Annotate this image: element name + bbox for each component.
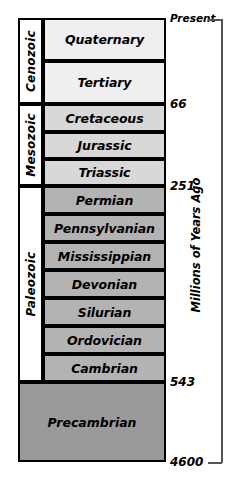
period-label-ordovician: Ordovician <box>67 333 142 348</box>
era-column-paleozoic: Paleozoic <box>18 186 43 382</box>
period-box-precambrian: Precambrian <box>18 382 166 462</box>
period-label-jurassic: Jurassic <box>78 138 132 153</box>
era-column-cenozoic: Cenozoic <box>18 18 43 104</box>
age-tick-label-543: 543 <box>170 376 195 388</box>
period-label-cambrian: Cambrian <box>71 361 138 376</box>
era-label-cenozoic: Cenozoic <box>24 30 38 92</box>
axis-bracket-tick-top <box>208 19 222 21</box>
geologic-time-scale-chart: CenozoicQuaternaryTertiaryMesozoicCretac… <box>0 0 235 478</box>
period-box-tertiary: Tertiary <box>43 61 166 104</box>
era-label-paleozoic: Paleozoic <box>24 252 38 317</box>
period-box-pennsylvanian: Pennsylvanian <box>43 214 166 242</box>
era-column-mesozoic: Mesozoic <box>18 104 43 186</box>
age-tick-label-4600: 4600 <box>170 456 203 468</box>
age-tick-label-66: 66 <box>170 98 187 110</box>
period-label-triassic: Triassic <box>79 165 131 180</box>
axis-title: Millions of Years Ago <box>186 150 206 340</box>
period-box-triassic: Triassic <box>43 159 166 186</box>
period-label-permian: Permian <box>76 193 133 208</box>
period-box-jurassic: Jurassic <box>43 132 166 159</box>
period-label-mississippian: Mississippian <box>58 249 151 264</box>
axis-title-text: Millions of Years Ago <box>189 177 203 312</box>
period-box-devonian: Devonian <box>43 270 166 298</box>
period-box-ordovician: Ordovician <box>43 326 166 354</box>
period-box-mississippian: Mississippian <box>43 242 166 270</box>
era-label-mesozoic: Mesozoic <box>24 113 38 177</box>
axis-bracket-vertical <box>221 19 223 463</box>
period-box-quaternary: Quaternary <box>43 18 166 61</box>
axis-bracket-tick-bottom <box>208 462 222 464</box>
period-box-permian: Permian <box>43 186 166 214</box>
period-box-cambrian: Cambrian <box>43 354 166 382</box>
period-box-cretaceous: Cretaceous <box>43 104 166 132</box>
period-box-silurian: Silurian <box>43 298 166 326</box>
period-label-pennsylvanian: Pennsylvanian <box>54 221 155 236</box>
period-label-tertiary: Tertiary <box>78 75 132 90</box>
period-label-devonian: Devonian <box>72 277 137 292</box>
period-label-precambrian: Precambrian <box>47 415 136 430</box>
period-label-cretaceous: Cretaceous <box>65 111 143 126</box>
period-label-silurian: Silurian <box>78 305 131 320</box>
period-label-quaternary: Quaternary <box>65 32 144 47</box>
